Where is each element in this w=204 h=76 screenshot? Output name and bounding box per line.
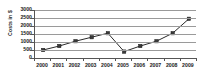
gridline-y-2500	[35, 18, 196, 19]
data-point-2001	[58, 44, 61, 47]
gridline-y-1000	[35, 42, 196, 43]
gridline-y-3000	[35, 10, 196, 11]
data-point-2003	[90, 36, 93, 39]
x-tick-label-2009: 2009	[177, 63, 199, 69]
line-chart: Costs in $ 050010001500200025003000 2000…	[0, 0, 204, 76]
x-tick-mark-4	[99, 58, 100, 61]
x-tick-mark-6	[131, 58, 132, 61]
y-tick-mark-2500	[30, 18, 34, 19]
y-tick-label-1000: 1000	[12, 39, 32, 44]
y-tick-mark-500	[30, 50, 34, 51]
gridline-y-500	[35, 50, 196, 51]
x-tick-mark-8	[164, 58, 165, 61]
x-axis-tick-labels: 2000200120022003200420052006200720082009	[34, 63, 196, 73]
y-tick-label-1500: 1500	[12, 31, 32, 36]
x-tick-mark-1	[50, 58, 51, 61]
y-axis-tick-labels: 050010001500200025003000	[12, 10, 32, 58]
x-tick-mark-2	[66, 58, 67, 61]
x-tick-mark-10	[196, 58, 197, 61]
x-tick-mark-9	[180, 58, 181, 61]
gridline-y-2000	[35, 26, 196, 27]
y-tick-label-2000: 2000	[12, 23, 32, 28]
x-tick-mark-5	[115, 58, 116, 61]
x-tick-mark-7	[147, 58, 148, 61]
x-tick-mark-3	[83, 58, 84, 61]
series-line-costs	[43, 19, 189, 52]
y-tick-mark-0	[30, 58, 34, 59]
y-tick-mark-3000	[30, 10, 34, 11]
y-tick-mark-2000	[30, 26, 34, 27]
y-tick-mark-1000	[30, 42, 34, 43]
plot-area	[34, 10, 196, 58]
y-tick-label-0: 0	[12, 55, 32, 60]
y-tick-label-2500: 2500	[12, 15, 32, 20]
y-tick-label-3000: 3000	[12, 7, 32, 12]
y-tick-mark-1500	[30, 34, 34, 35]
data-point-2006	[139, 44, 142, 47]
gridline-y-1500	[35, 34, 196, 35]
y-tick-label-500: 500	[12, 47, 32, 52]
x-tick-mark-0	[34, 58, 35, 61]
